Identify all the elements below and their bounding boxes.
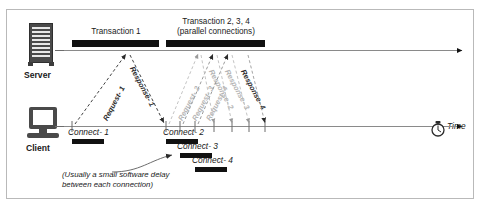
request-2-arrow	[169, 54, 198, 124]
request-3-arrow	[183, 54, 213, 124]
response-1-arrow	[130, 55, 164, 123]
response-4b-arrow	[248, 55, 265, 123]
response-3-arrow	[217, 55, 232, 123]
stopwatch-icon	[432, 121, 444, 136]
client-timeline-axis	[62, 121, 462, 132]
diagram-canvas: Server Client Transaction 1 Transaction …	[0, 0, 483, 210]
request-1-arrow	[75, 54, 126, 124]
note-pointer-arrow	[112, 155, 172, 172]
diagram-vector-layer	[0, 0, 483, 210]
response-4-arrow	[232, 55, 249, 123]
request-4-arrow	[198, 54, 228, 124]
